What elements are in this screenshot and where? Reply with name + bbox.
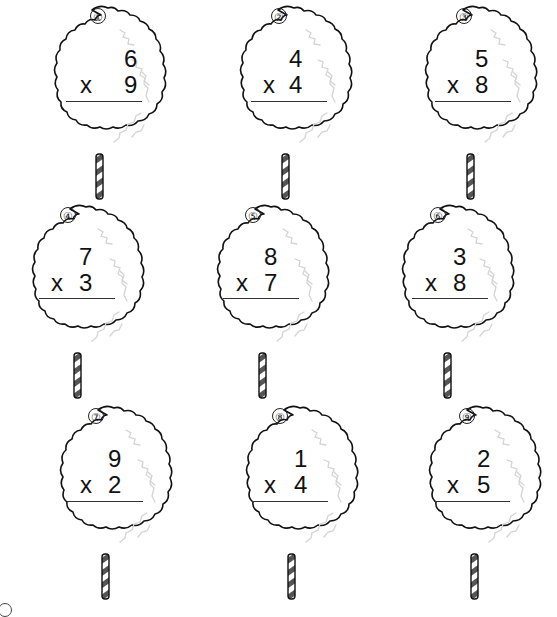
multiply-sign: x (80, 73, 92, 97)
cotton-candy-icon (28, 402, 188, 602)
answer-line[interactable] (412, 298, 488, 299)
multiply-sign: x (51, 271, 63, 295)
multiply-sign: x (447, 473, 459, 497)
multiplier: 5 (477, 473, 490, 497)
problem-number-badge: ⑥ (430, 207, 446, 223)
multiplicand: 1 (294, 447, 307, 471)
multiplicand: 4 (289, 47, 302, 71)
answer-line[interactable] (223, 298, 299, 299)
answer-line[interactable] (251, 101, 327, 102)
problem-6: ⑥ 3 x 8 (370, 201, 530, 401)
multiply-sign: x (80, 473, 92, 497)
problem-7: ⑦ 9 x 2 (28, 402, 188, 602)
cotton-candy-icon (214, 402, 374, 602)
multiplier: 3 (79, 271, 92, 295)
partial-number-badge (0, 603, 12, 617)
multiply-sign: x (236, 271, 248, 295)
problem-1: ① 6 x 9 (22, 2, 182, 202)
multiplier: 2 (108, 473, 121, 497)
multiplier: 9 (124, 73, 137, 97)
multiply-sign: x (447, 73, 459, 97)
cotton-candy-icon (370, 201, 530, 401)
problem-number-badge: ⑧ (272, 408, 288, 424)
multiplier: 7 (264, 271, 277, 295)
answer-line[interactable] (39, 298, 115, 299)
cotton-candy-icon (185, 201, 345, 401)
problem-2: ② 4 x 4 (208, 2, 368, 202)
problem-number-badge: ⑨ (459, 408, 475, 424)
answer-line[interactable] (434, 501, 510, 502)
multiplicand: 7 (79, 245, 92, 269)
multiplicand: 9 (108, 447, 121, 471)
multiplicand: 2 (477, 447, 490, 471)
cotton-candy-icon (397, 402, 557, 602)
problem-number-badge: ① (90, 8, 106, 24)
multiply-sign: x (425, 271, 437, 295)
multiplier: 8 (453, 271, 466, 295)
multiplicand: 5 (475, 47, 488, 71)
cotton-candy-icon (393, 2, 553, 202)
cotton-candy-icon (22, 2, 182, 202)
answer-line[interactable] (435, 101, 511, 102)
multiplicand: 6 (124, 47, 137, 71)
problem-number-badge: ⑦ (88, 408, 104, 424)
multiplicand: 8 (264, 245, 277, 269)
problem-3: ③ 5 x 8 (393, 2, 553, 202)
answer-line[interactable] (252, 501, 328, 502)
problem-5: ⑤ 8 x 7 (185, 201, 345, 401)
problem-9: ⑨ 2 x 5 (397, 402, 557, 602)
problem-number-badge: ⑤ (245, 207, 261, 223)
problem-8: ⑧ 1 x 4 (214, 402, 374, 602)
answer-line[interactable] (66, 101, 142, 102)
problem-number-badge: ③ (456, 8, 472, 24)
answer-line[interactable] (67, 501, 143, 502)
multiply-sign: x (264, 473, 276, 497)
problem-number-badge: ② (271, 8, 287, 24)
multiply-sign: x (263, 73, 275, 97)
multiplicand: 3 (453, 245, 466, 269)
multiplier: 8 (475, 73, 488, 97)
problem-4: ④ 7 x 3 (0, 201, 160, 401)
cotton-candy-icon (208, 2, 368, 202)
multiplier: 4 (294, 473, 307, 497)
multiplier: 4 (289, 73, 302, 97)
cotton-candy-icon (0, 201, 160, 401)
problem-number-badge: ④ (60, 207, 76, 223)
